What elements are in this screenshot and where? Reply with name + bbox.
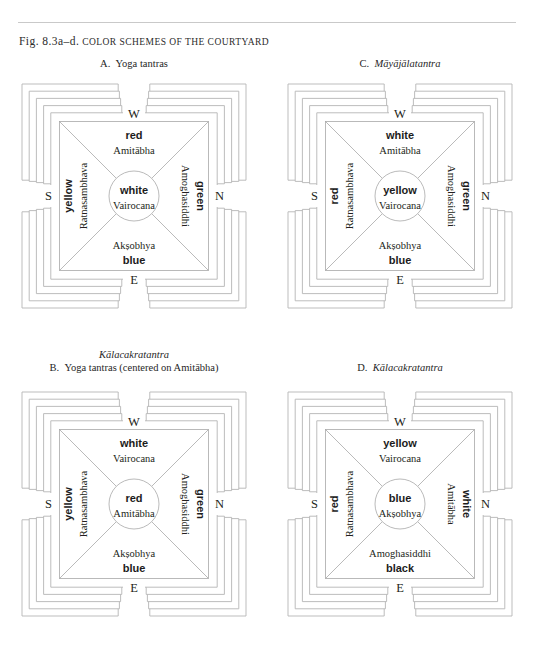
svg-text:red: red — [125, 492, 142, 504]
svg-text:W: W — [128, 415, 140, 429]
svg-text:white: white — [119, 184, 148, 196]
panel-a-letter: A. — [100, 58, 115, 69]
svg-text:S: S — [45, 497, 52, 511]
svg-text:W: W — [394, 415, 406, 429]
svg-text:Vairocana: Vairocana — [379, 200, 421, 211]
svg-text:N: N — [481, 497, 490, 511]
svg-text:Amoghasiddhi: Amoghasiddhi — [180, 473, 191, 535]
svg-text:white: white — [119, 437, 148, 449]
svg-text:blue: blue — [389, 254, 412, 266]
svg-text:yellow: yellow — [383, 437, 417, 449]
mandala-diagram-b: WESNwhiteVairocanaAkṣobhyablueyellowRatn… — [22, 392, 246, 616]
svg-text:Vairocana: Vairocana — [113, 453, 155, 464]
svg-text:W: W — [394, 107, 406, 121]
svg-text:Ratnasambhava: Ratnasambhava — [344, 162, 355, 229]
figure-title-text: Color schemes of the courtyard — [82, 37, 269, 47]
svg-text:S: S — [45, 189, 52, 203]
mandala-diagram-d: WESNyellowVairocanaAmoghasiddhiblackredR… — [288, 392, 512, 616]
svg-text:Amitābha: Amitābha — [113, 145, 155, 156]
header-rule — [18, 22, 516, 23]
panel-b-letter: B. — [50, 362, 65, 373]
svg-text:S: S — [311, 189, 318, 203]
panel-b-caption-extra: Kālacakratantra — [22, 349, 246, 360]
panel-b-caption: B. Yoga tantras (centered on Amitābha) — [22, 362, 246, 373]
svg-text:Akṣobhya: Akṣobhya — [113, 548, 156, 559]
svg-text:Vairocana: Vairocana — [113, 200, 155, 211]
svg-text:blue: blue — [389, 492, 412, 504]
panel-c-caption: C. Māyājālatantra — [288, 58, 512, 69]
svg-text:Akṣobhya: Akṣobhya — [379, 240, 422, 251]
panel-b-title: Yoga tantras (centered on Amitābha) — [64, 362, 218, 373]
mandala-diagram-c: WESNwhiteAmitābhaAkṣobhyablueredRatnasam… — [288, 84, 512, 308]
svg-text:Vairocana: Vairocana — [379, 453, 421, 464]
svg-text:N: N — [215, 189, 224, 203]
svg-text:E: E — [396, 273, 404, 287]
svg-text:red: red — [328, 187, 340, 204]
svg-text:N: N — [215, 497, 224, 511]
svg-text:yellow: yellow — [383, 184, 417, 196]
svg-text:white: white — [385, 129, 414, 141]
figure-number: Fig. 8.3a–d. — [19, 35, 79, 47]
svg-text:E: E — [130, 273, 138, 287]
svg-text:N: N — [481, 189, 490, 203]
panel-d-caption: D. Kālacakratantra — [288, 362, 512, 373]
svg-text:red: red — [328, 495, 340, 512]
panel-a-caption: A. Yoga tantras — [22, 58, 246, 69]
panel-d-letter: D. — [357, 362, 372, 373]
panel-d-title: Kālacakratantra — [373, 362, 443, 373]
svg-text:red: red — [125, 129, 142, 141]
svg-text:Amitābha: Amitābha — [379, 145, 421, 156]
svg-text:green: green — [461, 181, 473, 211]
svg-text:Ratnasambhava: Ratnasambhava — [344, 470, 355, 537]
svg-text:Amoghasiddhi: Amoghasiddhi — [180, 165, 191, 227]
svg-text:blue: blue — [123, 562, 146, 574]
svg-text:yellow: yellow — [62, 487, 74, 521]
svg-text:S: S — [311, 497, 318, 511]
panel-c-letter: C. — [360, 58, 375, 69]
svg-text:white: white — [461, 489, 473, 518]
panel-c-title: Māyājālatantra — [374, 58, 440, 69]
svg-text:Ratnasambhava: Ratnasambhava — [78, 470, 89, 537]
svg-text:green: green — [195, 489, 207, 519]
svg-text:Amitābha: Amitābha — [446, 483, 457, 525]
svg-text:Amoghasiddhi: Amoghasiddhi — [369, 548, 431, 559]
figure-caption: Fig. 8.3a–d. Color schemes of the courty… — [19, 35, 269, 47]
svg-text:Akṣobhya: Akṣobhya — [379, 508, 422, 519]
svg-text:yellow: yellow — [62, 179, 74, 213]
svg-text:Amitābha: Amitābha — [113, 508, 155, 519]
svg-text:W: W — [128, 107, 140, 121]
panel-a-title: Yoga tantras — [116, 58, 168, 69]
svg-text:Akṣobhya: Akṣobhya — [113, 240, 156, 251]
svg-text:Amoghasiddhi: Amoghasiddhi — [446, 165, 457, 227]
svg-text:green: green — [195, 181, 207, 211]
svg-text:Ratnasambhava: Ratnasambhava — [78, 162, 89, 229]
svg-text:black: black — [386, 562, 415, 574]
svg-text:blue: blue — [123, 254, 146, 266]
svg-text:E: E — [130, 581, 138, 595]
mandala-diagram-a: WESNredAmitābhaAkṣobhyablueyellowRatnasa… — [22, 84, 246, 308]
svg-text:E: E — [396, 581, 404, 595]
